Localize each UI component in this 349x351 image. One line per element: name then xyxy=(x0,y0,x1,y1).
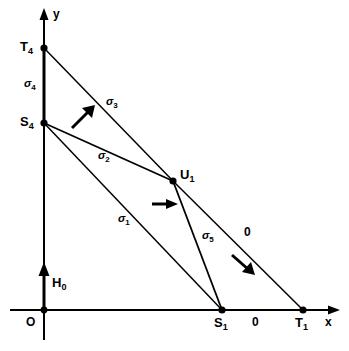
segment-sigma1 xyxy=(44,123,222,310)
vertex-label-T1-base: T xyxy=(295,315,303,330)
segment-label-sigma1: σ1 xyxy=(118,213,130,224)
vertex-label-S4-sub: 4 xyxy=(29,121,34,131)
h0-vector-label: H0 xyxy=(52,276,66,289)
segment-label-sigma4: σ4 xyxy=(24,78,36,89)
sigma4-sub: 4 xyxy=(31,83,35,92)
vertex-label-T1-sub: 1 xyxy=(303,322,308,332)
x-axis-label: x xyxy=(325,316,332,328)
zero-label-axis: 0 xyxy=(252,316,259,328)
h0-base: H xyxy=(52,275,61,290)
sigma2-sub: 2 xyxy=(105,155,109,164)
segment-u1-t1 xyxy=(173,181,303,310)
arrow-right-icon xyxy=(152,199,178,209)
vertex-label-T4: T4 xyxy=(20,40,33,53)
sigma3-sub: 3 xyxy=(113,101,117,110)
vertex-label-S4-base: S xyxy=(20,114,29,129)
vertex-label-S1: S1 xyxy=(214,316,228,329)
vertex-dot-S4 xyxy=(40,119,47,126)
vertex-dot-T4 xyxy=(40,44,47,51)
vertex-label-S1-base: S xyxy=(214,315,223,330)
vertex-label-T4-base: T xyxy=(20,39,28,54)
vertex-dot-S1 xyxy=(218,306,225,313)
arrow-up-right-icon xyxy=(72,105,95,128)
vertex-label-U1: U1 xyxy=(180,168,194,181)
sigma1-sub: 1 xyxy=(125,218,129,227)
segment-sigma5 xyxy=(173,181,222,310)
segment-label-sigma5: σ5 xyxy=(202,230,214,241)
h0-vector-group xyxy=(39,262,50,310)
h0-subscript: 0 xyxy=(61,282,66,292)
vertex-label-U1-base: U xyxy=(180,167,189,182)
figure-diagram: y x O H0 T4 S4 U1 S1 T1 σ4 σ3 σ2 σ1 σ5 0… xyxy=(0,0,349,351)
vertex-dot-T1 xyxy=(299,306,306,313)
y-axis-label: y xyxy=(53,8,60,20)
vertex-dot-U1 xyxy=(169,177,176,184)
sigma5-sub: 5 xyxy=(209,235,213,244)
segment-label-sigma2: σ2 xyxy=(98,150,110,161)
vertex-label-U1-sub: 1 xyxy=(189,174,194,184)
y-axis-arrowhead xyxy=(40,8,49,20)
axes-group xyxy=(10,8,340,340)
diagram-canvas xyxy=(0,0,349,351)
origin-label: O xyxy=(26,316,35,328)
vertex-label-S4: S4 xyxy=(20,115,34,128)
h0-vector-arrowhead xyxy=(39,262,50,276)
segment-label-sigma3: σ3 xyxy=(106,96,118,107)
vertex-label-T1: T1 xyxy=(295,316,308,329)
x-axis-arrowhead xyxy=(328,306,340,315)
vertex-label-S1-sub: 1 xyxy=(223,322,228,332)
zero-label-upper: 0 xyxy=(244,226,251,238)
vertex-label-T4-sub: 4 xyxy=(28,46,33,56)
